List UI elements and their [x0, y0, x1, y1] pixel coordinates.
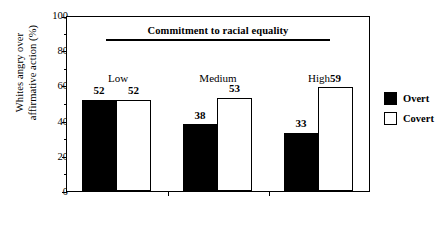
bar-high-overt	[284, 133, 318, 191]
legend-item-covert: Covert	[384, 108, 434, 128]
bar-medium-covert	[217, 98, 252, 191]
bar-low-overt	[82, 100, 116, 192]
bar-medium-overt	[183, 124, 217, 191]
y-tick-mark-40	[62, 122, 67, 123]
header-rule	[106, 39, 330, 41]
bar-label-medium-covert: 53	[217, 83, 252, 94]
x-tick-separator-2	[269, 191, 270, 196]
y-minor-tick-90	[64, 34, 67, 35]
y-axis-title-line-2: affirmative action (%)	[26, 3, 39, 143]
y-minor-tick-50	[64, 104, 67, 105]
group-label-low: Low	[82, 72, 154, 84]
legend-swatch-overt-icon	[384, 92, 397, 105]
y-minor-tick-70	[64, 69, 67, 70]
y-tick-mark-60	[62, 86, 67, 87]
bar-high-covert	[318, 87, 353, 191]
y-minor-tick-10	[64, 174, 67, 175]
legend-label-covert: Covert	[403, 113, 434, 124]
legend-item-overt: Overt	[384, 88, 434, 108]
bar-label-high-overt: 33	[284, 118, 318, 129]
bar-label-medium-overt: 38	[183, 110, 217, 121]
y-tick-mark-20	[62, 157, 67, 158]
bar-low-covert	[116, 100, 151, 192]
y-minor-tick-30	[64, 139, 67, 140]
y-tick-label-100: 100	[40, 11, 68, 21]
y-axis-title: Whites angry over affirmative action (%)	[14, 3, 39, 143]
plot-area: Commitment to racial equality Low Medium…	[66, 16, 370, 192]
bar-label-high-covert: 59	[318, 73, 353, 84]
bar-label-low-covert: 52	[116, 85, 151, 96]
y-tick-mark-0	[62, 192, 67, 193]
legend-label-overt: Overt	[403, 93, 429, 104]
y-axis-title-line-1: Whites angry over	[14, 3, 27, 143]
legend-swatch-covert-icon	[384, 112, 397, 125]
header-title: Commitment to racial equality	[106, 25, 330, 37]
y-tick-mark-80	[62, 51, 67, 52]
bar-chart-figure: Whites angry over affirmative action (%)…	[0, 0, 440, 230]
bar-label-low-overt: 52	[82, 85, 116, 96]
header-band: Commitment to racial equality	[106, 25, 330, 41]
y-tick-mark-100	[62, 17, 67, 18]
legend: Overt Covert	[384, 88, 434, 128]
x-tick-separator-1	[168, 191, 169, 196]
